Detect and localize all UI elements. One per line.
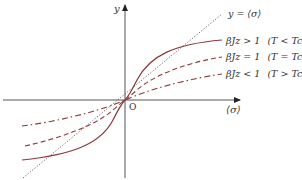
curve-below-tc-label: βJz > 1 (T < Tc) [225,35,302,46]
x-axis-label: ⟨σ⟩ [226,104,241,115]
mean-field-diagram: y O ⟨σ⟩ y = ⟨σ⟩ βJz > 1 (T < Tc) βJz = 1… [0,0,302,180]
curve-at-tc-label: βJz = 1 (T = Tc) [225,51,302,62]
curve-at-tc-main: βJz = 1 [225,51,260,62]
origin-label: O [129,102,136,112]
curve-at-tc-cond: (T = Tc) [267,51,302,62]
reference-line-label: y = ⟨σ⟩ [227,8,261,19]
curve-above-tc-cond: (T > Tc) [267,68,302,79]
curve-above-tc-main: βJz < 1 [225,68,260,79]
curve-below-tc-cond: (T < Tc) [267,35,302,46]
y-axis-label: y [113,3,120,14]
curve-above-tc-label: βJz < 1 (T > Tc) [225,68,302,79]
curve-below-tc-main: βJz > 1 [225,35,260,46]
reference-line-y-equals-sigma [23,14,222,178]
